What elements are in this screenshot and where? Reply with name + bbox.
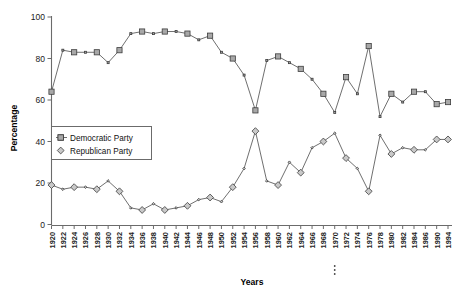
data-point-marker	[152, 33, 154, 35]
data-point-marker	[275, 182, 282, 189]
x-tick-label: 1964	[297, 231, 306, 248]
x-axis-gap-ellipsis-icon	[334, 265, 336, 275]
data-point-marker	[185, 31, 190, 36]
x-tick-label: 1966	[308, 232, 317, 248]
x-tick-label: 1936	[138, 232, 147, 248]
y-tick-group: 020406080100	[31, 12, 52, 230]
data-point-marker	[207, 194, 214, 201]
data-point-marker	[334, 111, 336, 113]
data-point-marker	[411, 89, 416, 94]
data-point-marker	[152, 202, 155, 205]
x-tick-label: 1928	[93, 232, 102, 248]
data-point-marker	[220, 200, 223, 203]
x-tick-label: 1972	[342, 232, 351, 248]
x-tick-label: 1934	[127, 231, 136, 248]
x-tick-label: 1978	[376, 232, 385, 248]
ellipsis-dot	[334, 265, 336, 267]
data-point-marker	[62, 49, 64, 51]
data-point-marker	[162, 29, 167, 34]
data-point-marker	[434, 102, 439, 107]
ellipsis-dot	[334, 273, 336, 275]
data-point-marker	[107, 62, 109, 64]
data-point-marker	[130, 33, 132, 35]
x-tick-label: 1940	[161, 232, 170, 248]
x-tick-label: 1938	[149, 232, 158, 248]
data-point-marker	[161, 207, 168, 214]
data-point-marker	[93, 186, 100, 193]
chart-container: 020406080100 Percentage 1920192219241926…	[0, 0, 459, 297]
x-tick-label: 1954	[240, 231, 249, 248]
y-tick-label: 80	[36, 54, 46, 64]
ellipsis-dot	[334, 269, 336, 271]
x-tick-label: 1942	[172, 232, 181, 248]
x-tick-label: 1980	[387, 232, 396, 248]
data-point-marker	[220, 51, 222, 53]
data-point-marker	[62, 188, 65, 191]
data-point-marker	[72, 50, 77, 55]
y-axis: 020406080100 Percentage	[9, 12, 52, 230]
data-point-marker	[333, 132, 336, 135]
data-point-marker	[320, 138, 327, 145]
data-point-marker	[129, 207, 132, 210]
x-tick-label: 1922	[59, 232, 68, 248]
data-point-marker	[230, 56, 235, 61]
x-tick-label: 1960	[274, 232, 283, 248]
x-tick-label: 1920	[48, 232, 57, 248]
data-point-marker	[243, 74, 245, 76]
data-point-marker	[401, 146, 404, 149]
data-point-marker	[49, 89, 54, 94]
data-point-marker	[298, 66, 303, 71]
x-tick-label: 1932	[115, 232, 124, 248]
x-tick-label: 1984	[410, 231, 419, 248]
data-point-marker	[379, 116, 381, 118]
x-tick-label: 1958	[263, 232, 272, 248]
data-point-marker	[175, 207, 178, 210]
data-point-marker	[139, 207, 146, 214]
data-point-marker	[366, 43, 371, 48]
data-point-marker	[411, 146, 418, 153]
x-axis-title: Years	[241, 277, 264, 287]
data-point-marker	[343, 75, 348, 80]
x-tick-label: 1986	[421, 232, 430, 248]
x-tick-label: 1944	[183, 231, 192, 248]
data-point-marker	[424, 148, 427, 151]
data-series-group	[48, 29, 451, 213]
x-tick-label: 1990	[433, 232, 442, 248]
data-point-marker	[229, 184, 236, 191]
y-tick-label: 60	[36, 95, 46, 105]
data-point-marker	[311, 146, 314, 149]
x-tick-label: 1930	[104, 232, 113, 248]
election-percentage-line-chart: 020406080100 Percentage 1920192219241926…	[0, 0, 459, 297]
data-point-marker	[379, 134, 382, 137]
data-point-marker	[288, 161, 291, 164]
data-point-marker	[402, 101, 404, 103]
data-point-marker	[445, 99, 450, 104]
data-point-marker	[424, 91, 426, 93]
data-point-marker	[253, 108, 258, 113]
data-point-marker	[365, 188, 372, 195]
x-tick-label: 1970	[331, 232, 340, 248]
data-point-marker	[266, 60, 268, 62]
data-point-marker	[71, 184, 78, 191]
x-axis: 1920192219241926192819301932193419361938…	[48, 226, 454, 288]
y-tick-label: 40	[36, 137, 46, 147]
data-point-marker	[84, 51, 86, 53]
x-tick-label: 1950	[217, 232, 226, 248]
data-point-marker	[388, 151, 395, 158]
data-point-marker	[252, 128, 259, 135]
y-axis-title: Percentage	[9, 105, 19, 152]
data-point-marker	[197, 198, 200, 201]
x-tick-label: 1924	[70, 231, 79, 248]
data-point-marker	[140, 29, 145, 34]
data-point-marker	[356, 93, 358, 95]
data-point-marker	[389, 91, 394, 96]
x-tick-label: 1982	[399, 232, 408, 248]
x-tick-label: 1952	[229, 232, 238, 248]
legend: Democratic PartyRepublican Party	[52, 127, 152, 160]
x-tick-label: 1974	[353, 231, 362, 248]
data-point-marker	[243, 167, 246, 170]
data-point-marker	[311, 78, 313, 80]
x-tick-label: 1956	[251, 232, 260, 248]
series-line	[52, 32, 449, 117]
data-point-marker	[356, 167, 359, 170]
